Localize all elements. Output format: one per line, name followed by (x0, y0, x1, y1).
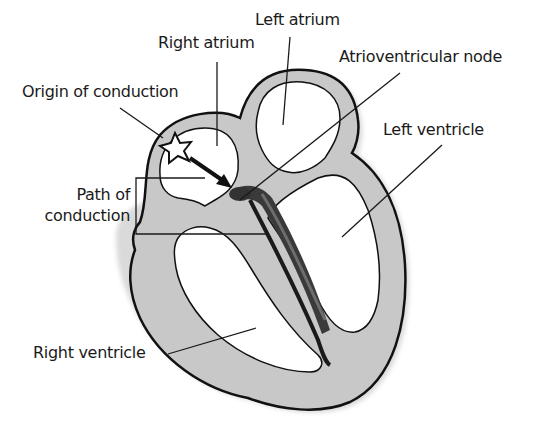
label-left-ventricle: Left ventricle (383, 120, 484, 140)
label-path-line2: conduction (28, 205, 130, 226)
label-path-of-conduction: Path of conduction (28, 184, 130, 226)
label-origin-of-conduction: Origin of conduction (22, 82, 178, 102)
label-right-atrium: Right atrium (158, 33, 254, 53)
label-av-node: Atrioventricular node (339, 47, 502, 67)
heart-conduction-diagram: Left atrium Right atrium Atrioventricula… (0, 0, 547, 429)
label-path-line1: Path of (28, 184, 130, 205)
label-right-ventricle: Right ventricle (33, 343, 146, 363)
label-left-atrium: Left atrium (255, 10, 340, 30)
leader-origin (120, 108, 163, 138)
